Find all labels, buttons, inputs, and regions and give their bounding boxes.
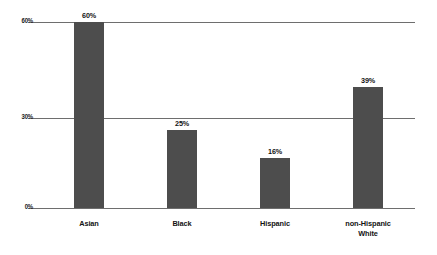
bar-value-label-hispanic: 16% xyxy=(247,147,303,156)
x-tick-label-black: Black xyxy=(138,219,226,229)
bar-group-asian: 60% xyxy=(74,22,104,208)
bar-group-black: 25% xyxy=(167,130,197,208)
bar-value-label-non-hispanic-white: 39% xyxy=(340,76,396,85)
x-axis: Asian Black Hispanic non-Hispanic White xyxy=(0,219,437,255)
bar-asian[interactable] xyxy=(74,22,104,208)
bar-black[interactable] xyxy=(167,130,197,208)
x-tick-label-hispanic: Hispanic xyxy=(231,219,319,229)
bar-hispanic[interactable] xyxy=(260,158,290,208)
bar-value-label-black: 25% xyxy=(154,119,210,128)
bar-group-hispanic: 16% xyxy=(260,158,290,208)
bar-chart: 60% 30% 0% 60% 25% 16% 39% Asian Black H… xyxy=(0,0,437,255)
x-tick-label-line1: non-Hispanic xyxy=(345,219,391,228)
bar-non-hispanic-white[interactable] xyxy=(353,87,383,208)
bar-value-label-asian: 60% xyxy=(61,11,117,20)
bars-layer: 60% 25% 16% 39% xyxy=(0,0,437,255)
x-tick-label-asian: Asian xyxy=(45,219,133,229)
x-tick-label-line2: White xyxy=(324,229,412,239)
x-tick-label-non-hispanic-white: non-Hispanic White xyxy=(324,219,412,239)
bar-group-non-hispanic-white: 39% xyxy=(353,87,383,208)
